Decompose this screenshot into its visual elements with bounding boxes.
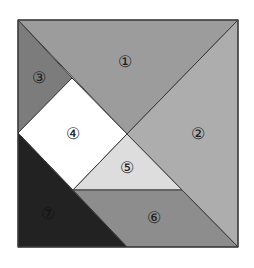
piece-6-label: ⑥ — [144, 208, 164, 228]
piece-7-label: ⑦ — [38, 204, 58, 224]
piece-1-label: ① — [115, 52, 135, 72]
piece-4-label: ④ — [63, 124, 83, 144]
piece-5-label: ⑤ — [117, 158, 137, 178]
tangram-diagram — [0, 0, 254, 268]
piece-2-label: ② — [188, 124, 208, 144]
piece-3-label: ③ — [29, 68, 49, 88]
